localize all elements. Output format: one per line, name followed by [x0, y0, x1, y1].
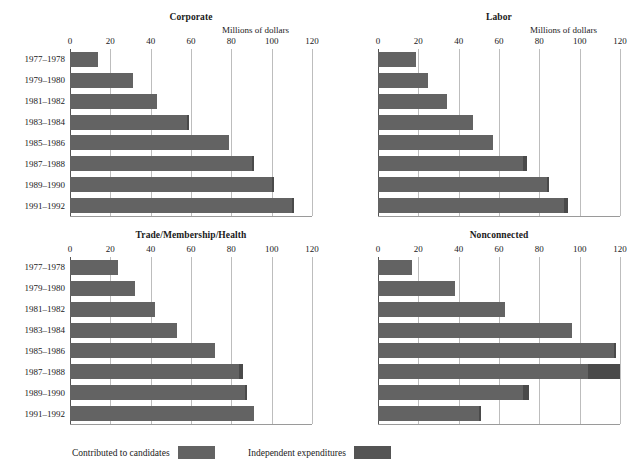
xtick-80: 80: [535, 36, 544, 47]
gridline-120: [312, 257, 313, 424]
bar-row: [378, 52, 620, 67]
stacked-bar: [378, 115, 473, 130]
bar-row: [70, 135, 312, 150]
bar-segment-contributed: [378, 135, 493, 150]
panel-corporate: Corporate Millions of dollars 0 20 40 60…: [0, 0, 320, 225]
bar-segment-contributed: [70, 52, 98, 67]
xtick-labels-labor: 0 20 40 60 80 100 120: [378, 36, 620, 48]
bar-row: [70, 343, 312, 358]
xtick-0: 0: [376, 36, 381, 47]
bar-row: [378, 343, 620, 358]
ytick-label: 1985–1986: [25, 346, 66, 356]
xtick-labels-nonconnected: 0 20 40 60 80 100 120: [378, 244, 620, 256]
ytick-label: 1979–1980: [25, 75, 66, 85]
ytick-label: 1979–1980: [25, 283, 66, 293]
stacked-bar: [70, 115, 189, 130]
ytick-label: 1987–1988: [25, 159, 66, 169]
panel-title-nonconnected: Nonconnected: [378, 230, 620, 240]
xtick-120: 120: [305, 36, 319, 47]
stacked-bar: [378, 302, 505, 317]
stacked-bar: [70, 406, 254, 421]
bar-row: [378, 115, 620, 130]
xtick-40: 40: [146, 36, 155, 47]
stacked-bar: [70, 302, 155, 317]
panel-nonconnected: Nonconnected 0 20 40 60 80 100 120: [320, 225, 622, 430]
bar-segment-contributed: [70, 385, 245, 400]
xtick-60: 60: [187, 36, 196, 47]
stacked-bar: [378, 281, 455, 296]
bar-row: [70, 364, 312, 379]
bars-labor: [378, 49, 620, 216]
bar-row: [70, 323, 312, 338]
plot-area-corporate: [70, 49, 312, 216]
stacked-bar: [378, 343, 616, 358]
bar-segment-contributed: [70, 198, 292, 213]
xtick-120: 120: [305, 244, 319, 255]
xtick-20: 20: [414, 244, 423, 255]
bar-segment-independent: [479, 406, 481, 421]
bar-segment-contributed: [378, 260, 412, 275]
panel-title-trade-membership-health: Trade/Membership/Health: [70, 230, 312, 240]
ytick-label: 1991–1992: [25, 409, 66, 419]
bar-segment-contributed: [378, 281, 455, 296]
bar-segment-contributed: [378, 198, 564, 213]
bar-segment-contributed: [70, 406, 254, 421]
xtick-120: 120: [613, 244, 627, 255]
bar-segment-independent: [523, 385, 529, 400]
bar-segment-independent: [564, 198, 568, 213]
bars-nonconnected: [378, 257, 620, 424]
ytick-label: 1989–1990: [25, 180, 66, 190]
ytick-label: 1991–1992: [25, 201, 66, 211]
plot-area-trade-membership-health: [70, 257, 312, 424]
xtick-80: 80: [535, 244, 544, 255]
bars-corporate: [70, 49, 312, 216]
xtick-100: 100: [265, 36, 279, 47]
stacked-bar: [70, 385, 247, 400]
bar-row: [70, 52, 312, 67]
gridline-120: [312, 49, 313, 216]
ytick-label: 1981–1982: [25, 96, 66, 106]
xtick-120: 120: [613, 36, 627, 47]
bar-row: [378, 94, 620, 109]
stacked-bar: [70, 364, 243, 379]
bar-segment-contributed: [70, 302, 155, 317]
bar-row: [378, 73, 620, 88]
bar-segment-contributed: [378, 343, 614, 358]
bar-segment-contributed: [70, 343, 215, 358]
xtick-60: 60: [495, 36, 504, 47]
ytick-labels-trade-membership-health: 1977–19781979–19801981–19821983–19841985…: [0, 257, 65, 424]
plot-area-labor: [378, 49, 620, 216]
stacked-bar: [378, 94, 447, 109]
xtick-100: 100: [573, 244, 587, 255]
bar-segment-contributed: [70, 73, 133, 88]
bar-segment-contributed: [70, 156, 252, 171]
bar-segment-contributed: [378, 115, 473, 130]
units-label-labor: Millions of dollars: [530, 25, 597, 35]
bar-segment-independent: [523, 156, 527, 171]
xtick-labels-trade-membership-health: 0 20 40 60 80 100 120: [70, 244, 312, 256]
xtick-100: 100: [573, 36, 587, 47]
ytick-label: 1983–1984: [25, 117, 66, 127]
gridline-120: [620, 257, 621, 424]
plot-area-nonconnected: [378, 257, 620, 424]
bar-row: [378, 406, 620, 421]
stacked-bar: [378, 260, 412, 275]
xtick-80: 80: [227, 244, 236, 255]
bar-row: [70, 302, 312, 317]
stacked-bar: [70, 343, 215, 358]
xtick-60: 60: [187, 244, 196, 255]
bar-row: [378, 323, 620, 338]
stacked-bar: [70, 281, 135, 296]
xtick-40: 40: [146, 244, 155, 255]
legend-item-independent: Independent expenditures: [248, 446, 391, 459]
bar-segment-independent: [588, 364, 620, 379]
bar-row: [70, 94, 312, 109]
ytick-label: 1977–1978: [25, 262, 66, 272]
bar-segment-contributed: [378, 385, 523, 400]
units-label-corporate: Millions of dollars: [222, 25, 289, 35]
bars-trade-membership-health: [70, 257, 312, 424]
stacked-bar: [378, 198, 568, 213]
panel-title-labor: Labor: [378, 12, 620, 22]
axis-baseline: [378, 424, 620, 425]
